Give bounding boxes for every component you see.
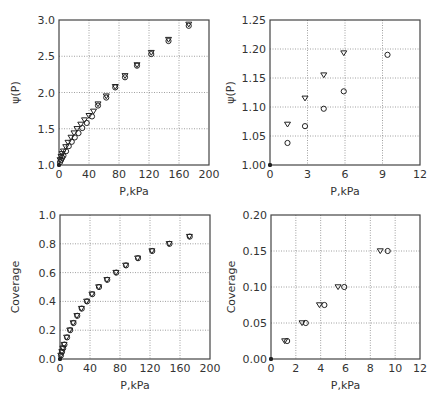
data-point-circle <box>385 248 390 253</box>
grid-lines <box>270 20 420 165</box>
data-point-circle <box>285 140 290 145</box>
data-point <box>268 163 272 167</box>
y-axis-label: ψ(P) <box>9 81 22 103</box>
x-tick-label: 120 <box>139 168 160 181</box>
series-circles <box>57 23 191 167</box>
data-point-circle <box>321 106 326 111</box>
y-tick-label: 0.00 <box>243 353 268 366</box>
x-tick-label: 80 <box>112 168 126 181</box>
y-axis-label: ψ(P) <box>224 81 237 103</box>
x-tick-label: 200 <box>199 168 220 181</box>
x-tick-label: 0 <box>57 362 64 375</box>
x-tick-label: 0 <box>56 168 63 181</box>
series-circles <box>268 52 390 167</box>
y-tick-labels: 0.00.20.40.60.81.0 <box>39 209 57 366</box>
y-tick-label: 1.10 <box>242 101 267 114</box>
data-point-triangle <box>285 122 291 127</box>
y-tick-label: 0.4 <box>39 295 57 308</box>
y-tick-label: 1.5 <box>38 123 56 136</box>
plot-frame <box>271 215 420 359</box>
data-point-circle <box>302 124 307 129</box>
series-circles <box>58 234 192 361</box>
x-tick-label: 160 <box>170 362 191 375</box>
y-tick-label: 2.0 <box>38 87 56 100</box>
y-tick-label: 0.6 <box>39 267 57 280</box>
series-triangles <box>269 249 383 361</box>
y-tick-label: 1.05 <box>242 130 267 143</box>
data-point-triangle <box>377 249 383 254</box>
chart-psi-vs-pressure-full: 040801201602001.01.52.02.53.0P,kPaψ(P) <box>9 14 220 198</box>
x-tick-label: 0 <box>268 362 275 375</box>
data-point-triangle <box>341 51 347 56</box>
chart-coverage-vs-pressure-full: 040801201602000.00.20.40.60.81.0P,kPaCov… <box>9 209 221 392</box>
x-tick-labels: 024681012 <box>268 362 428 375</box>
x-tick-label: 200 <box>200 362 221 375</box>
y-tick-label: 3.0 <box>38 14 56 27</box>
x-tick-label: 40 <box>83 362 97 375</box>
data-point <box>57 163 61 167</box>
x-tick-label: 12 <box>413 168 427 181</box>
grid-lines <box>59 20 209 165</box>
y-tick-label: 1.00 <box>242 159 267 172</box>
x-tick-label: 12 <box>413 362 427 375</box>
x-tick-label: 2 <box>292 362 299 375</box>
x-tick-labels: 04080120160200 <box>56 168 220 181</box>
y-tick-label: 0.05 <box>243 317 268 330</box>
x-tick-label: 120 <box>140 362 161 375</box>
y-tick-label: 0.10 <box>243 281 268 294</box>
y-tick-label: 0.2 <box>39 324 57 337</box>
y-tick-label: 2.5 <box>38 50 56 63</box>
y-tick-label: 1.15 <box>242 72 267 85</box>
x-axis-label: P,kPa <box>119 185 148 198</box>
y-tick-label: 0.8 <box>39 238 57 251</box>
x-tick-label: 3 <box>304 168 311 181</box>
y-tick-label: 0.15 <box>243 245 268 258</box>
series-triangles <box>58 234 193 361</box>
x-axis-label: P,kPa <box>120 379 149 392</box>
y-tick-labels: 0.000.050.100.150.20 <box>243 209 268 366</box>
data-point-circle <box>341 89 346 94</box>
x-tick-labels: 04080120160200 <box>57 362 221 375</box>
x-tick-label: 8 <box>367 362 374 375</box>
x-tick-label: 160 <box>169 168 190 181</box>
series-triangles <box>57 22 192 167</box>
series-circles <box>269 248 390 361</box>
y-tick-label: 1.20 <box>242 43 267 56</box>
x-tick-labels: 036912 <box>267 168 428 181</box>
x-tick-label: 0 <box>267 168 274 181</box>
chart-coverage-vs-pressure-low: 0246810120.000.050.100.150.20P,kPaCovera… <box>225 209 427 392</box>
data-point-circle <box>385 52 390 57</box>
y-tick-label: 0.20 <box>243 209 268 222</box>
data-point <box>269 357 273 361</box>
chart-psi-vs-pressure-low: 0369121.001.051.101.151.201.25P,kPaψ(P) <box>224 14 427 198</box>
x-tick-label: 9 <box>379 168 386 181</box>
y-tick-label: 1.25 <box>242 14 267 27</box>
x-tick-label: 6 <box>342 362 349 375</box>
x-tick-label: 80 <box>113 362 127 375</box>
x-tick-label: 6 <box>342 168 349 181</box>
x-tick-label: 40 <box>82 168 96 181</box>
data-point-triangle <box>321 73 327 78</box>
y-axis-label: Coverage <box>225 260 238 313</box>
x-tick-label: 10 <box>388 362 402 375</box>
y-axis-label: Coverage <box>9 260 22 313</box>
data-point-triangle <box>335 285 341 290</box>
y-tick-label: 1.0 <box>39 209 57 222</box>
y-tick-labels: 1.01.52.02.53.0 <box>38 14 56 172</box>
figure-canvas: 040801201602001.01.52.02.53.0P,kPaψ(P) 0… <box>0 0 440 407</box>
y-tick-label: 0.0 <box>39 353 57 366</box>
x-tick-label: 4 <box>317 362 324 375</box>
y-tick-labels: 1.001.051.101.151.201.25 <box>242 14 267 172</box>
y-tick-label: 1.0 <box>38 159 56 172</box>
grid-lines <box>271 215 420 359</box>
x-axis-label: P,kPa <box>331 379 360 392</box>
x-axis-label: P,kPa <box>330 185 359 198</box>
